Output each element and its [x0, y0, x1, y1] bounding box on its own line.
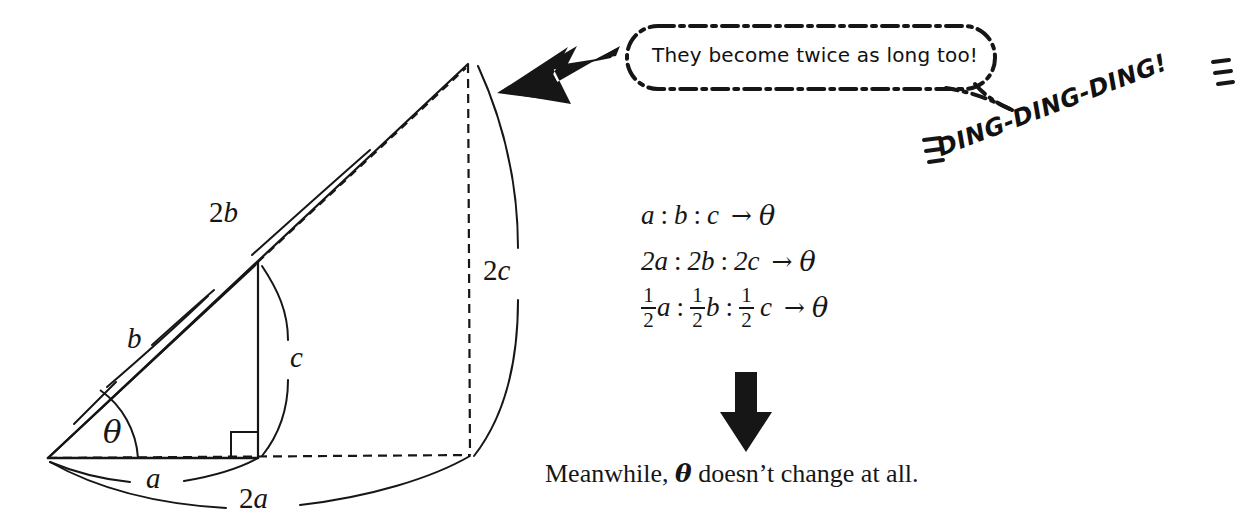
caption-after: doesn’t change at all.	[692, 459, 919, 488]
eq2-sep-1: :	[668, 246, 688, 277]
eq2-result: θ	[799, 246, 815, 277]
label-a: a	[146, 464, 161, 493]
eq3-frac2-numerator: 1	[690, 285, 705, 306]
pointer-down-arrow	[720, 372, 772, 452]
eq1-term-c: c	[707, 200, 719, 231]
pointer-left-arrow	[497, 46, 620, 104]
equation-row-1: a : b : c → θ	[641, 192, 828, 238]
side-2c-line	[468, 64, 470, 455]
eq3-frac2-denominator: 2	[690, 310, 705, 331]
eq2-term-2b: 2b	[688, 246, 715, 277]
eq3-frac1-denominator: 2	[641, 310, 656, 331]
label-2c: 2c	[483, 256, 510, 285]
sound-emphasis-right	[1213, 60, 1233, 84]
brace-a-left	[50, 462, 130, 482]
eq1-sep-1: :	[655, 200, 675, 231]
eq1-sep-2: :	[688, 200, 708, 231]
eq3-sep-2: :	[720, 292, 740, 323]
brace-2a-left	[50, 462, 226, 508]
construction-line	[48, 265, 256, 458]
eq3-arrow: →	[772, 293, 812, 322]
apex-continuation-dashed	[258, 68, 466, 262]
eq2-arrow: →	[760, 247, 800, 276]
label-2b: 2b	[209, 198, 238, 227]
equation-row-3: 1 2 a : 1 2 b : 1 2 c → θ	[641, 284, 828, 330]
speech-bubble-shape	[627, 26, 1012, 110]
equation-list: a : b : c → θ 2a : 2b : 2c → θ 1 2 a :	[641, 192, 828, 330]
eq3-frac1-numerator: 1	[641, 285, 656, 306]
brace-c-lower	[262, 380, 288, 456]
brace-2a-right	[300, 456, 470, 505]
eq3-fraction-1: 1 2	[641, 285, 656, 331]
eq2-sep-2: :	[715, 246, 735, 277]
brace-c-upper	[262, 266, 288, 340]
eq1-term-a: a	[641, 200, 655, 231]
eq1-arrow: →	[719, 201, 759, 230]
eq1-result: θ	[759, 200, 775, 231]
eq3-var-a: a	[657, 292, 671, 323]
eq1-term-b: b	[674, 200, 688, 231]
eq3-fraction-3: 1 2	[739, 285, 754, 331]
brace-b-far	[152, 290, 214, 345]
caption-text: Meanwhile, θ doesn’t change at all.	[545, 459, 919, 489]
brace-a-right	[184, 458, 258, 481]
label-theta: θ	[103, 417, 122, 448]
eq3-fraction-2: 1 2	[690, 285, 705, 331]
diagram-svg	[0, 0, 1247, 526]
label-c: c	[290, 343, 303, 372]
brace-2b-far	[252, 150, 370, 255]
equation-row-2: 2a : 2b : 2c → θ	[641, 238, 828, 284]
eq2-term-2c: 2c	[734, 246, 759, 277]
eq3-sep-1: :	[671, 292, 691, 323]
label-2a: 2a	[239, 484, 268, 513]
speech-bubble-text: They become twice as long too!	[652, 43, 978, 67]
caption-theta: θ	[675, 459, 692, 488]
eq3-var-c: c	[755, 292, 772, 323]
brace-2c-lower	[474, 300, 518, 456]
eq3-frac3-numerator: 1	[739, 285, 754, 306]
figure-canvas: 2b b c 2c a 2a θ They become twice as lo…	[0, 0, 1247, 526]
right-angle-marker	[231, 432, 258, 458]
caption-before: Meanwhile,	[545, 459, 675, 488]
eq3-frac3-denominator: 2	[739, 310, 754, 331]
eq3-result: θ	[812, 292, 828, 323]
eq2-term-2a: 2a	[641, 246, 668, 277]
eq3-var-b: b	[706, 292, 720, 323]
label-b: b	[127, 324, 142, 353]
